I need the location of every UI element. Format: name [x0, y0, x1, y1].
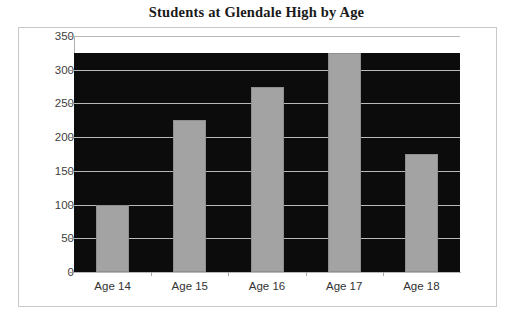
x-axis-tick-label: Age 16 — [249, 280, 285, 292]
x-axis-tick-mark — [228, 272, 229, 276]
bar-chart: Students at Glendale High by Age 0501001… — [0, 0, 513, 325]
x-axis-tick-label: Age 18 — [403, 280, 439, 292]
x-axis-tick-mark — [151, 272, 152, 276]
x-axis-tick-label: Age 15 — [172, 280, 208, 292]
x-axis-line — [74, 272, 461, 273]
plot-area — [74, 36, 460, 272]
y-axis-tick-label: 0 — [26, 266, 74, 278]
y-axis-tick-label: 200 — [26, 131, 74, 143]
y-axis-ticks: 050100150200250300350 — [18, 36, 74, 272]
y-axis-tick-label: 150 — [26, 165, 74, 177]
y-axis-tick-label: 50 — [26, 232, 74, 244]
x-axis-tick-mark — [383, 272, 384, 276]
bar-age-17[interactable] — [328, 53, 361, 272]
y-axis-tick-label: 350 — [26, 30, 74, 42]
y-axis-tick-label: 250 — [26, 97, 74, 109]
bar-age-14[interactable] — [96, 205, 129, 272]
x-axis-tick-mark — [306, 272, 307, 276]
bar-age-16[interactable] — [251, 87, 284, 272]
x-axis-tick-label: Age 14 — [94, 280, 130, 292]
bar-age-18[interactable] — [405, 154, 438, 272]
x-axis-tick-label: Age 17 — [326, 280, 362, 292]
y-axis-tick-label: 100 — [26, 199, 74, 211]
y-axis-tick-label: 300 — [26, 64, 74, 76]
chart-title: Students at Glendale High by Age — [0, 4, 513, 21]
bar-age-15[interactable] — [173, 120, 206, 272]
x-axis-labels: Age 14Age 15Age 16Age 17Age 18 — [74, 276, 460, 298]
gridline — [74, 36, 460, 37]
